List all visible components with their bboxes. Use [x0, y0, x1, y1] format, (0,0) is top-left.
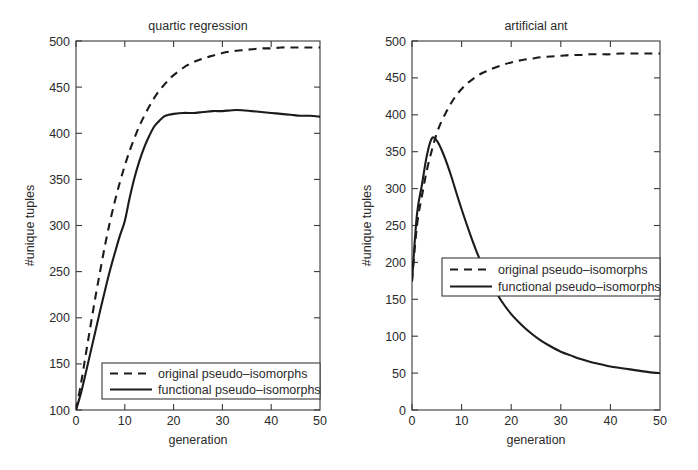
- right-series-functional-pseudo-isomorphs: [412, 137, 660, 373]
- left-xtick-label-5: 50: [313, 414, 327, 428]
- right-ytick-100: 100: [385, 330, 660, 344]
- right-ytick-label-1: 50: [392, 367, 406, 381]
- left-ytick-label-6: 400: [49, 127, 70, 141]
- left-ytick-250: 250: [49, 265, 320, 279]
- left-ytick-label-0: 100: [49, 404, 70, 418]
- right-ytick-label-6: 300: [385, 182, 406, 196]
- left-xtick-label-3: 30: [215, 414, 229, 428]
- right-xtick-20: 20: [504, 41, 518, 428]
- right-ytick-label-9: 450: [385, 71, 406, 85]
- right-xtick-10: 10: [455, 41, 469, 428]
- right-xtick-30: 30: [554, 41, 568, 428]
- right-xtick-label-1: 10: [455, 414, 469, 428]
- right-plot-title: artificial ant: [504, 19, 568, 33]
- right-ytick-450: 450: [385, 71, 660, 85]
- left-xtick-50: 50: [313, 414, 327, 428]
- left-series-group: [76, 47, 320, 410]
- left-legend-label-0: original pseudo–isomorphs: [158, 367, 307, 381]
- right-xtick-40: 40: [603, 41, 617, 428]
- right-ytick-300: 300: [385, 182, 660, 196]
- right-ytick-label-8: 400: [385, 108, 406, 122]
- right-xtick-label-4: 40: [603, 414, 617, 428]
- right-axes-frame: [412, 41, 660, 410]
- left-series-original-pseudo-isomorphs: [76, 47, 320, 410]
- right-ytick-500: 500: [385, 35, 418, 49]
- left-legend: original pseudo–isomorphs functional pse…: [102, 363, 321, 399]
- right-ytick-label-4: 200: [385, 256, 406, 270]
- figure-canvas: quartic regression 100 150 20: [0, 0, 698, 470]
- right-ytick-400: 400: [385, 108, 660, 122]
- left-plot-title: quartic regression: [148, 19, 247, 33]
- left-ytick-350: 350: [49, 173, 320, 187]
- left-xtick-label-0: 0: [73, 414, 80, 428]
- right-legend-label-0: original pseudo–isomorphs: [498, 263, 647, 277]
- right-ytick-label-2: 100: [385, 330, 406, 344]
- right-plot-svg: artificial ant 0 50 100: [349, 0, 698, 470]
- left-ytick-450: 450: [49, 81, 320, 95]
- right-xtick-label-5: 50: [653, 414, 667, 428]
- right-xaxis-title: generation: [506, 433, 565, 447]
- left-xaxis-title: generation: [168, 433, 227, 447]
- left-ytick-label-2: 200: [49, 311, 70, 325]
- left-ytick-300: 300: [49, 219, 320, 233]
- right-ytick-250: 250: [385, 219, 660, 233]
- chart-panel-quartic-regression: quartic regression 100 150 20: [0, 0, 349, 470]
- right-ytick-label-5: 250: [385, 219, 406, 233]
- right-ytick-label-0: 0: [399, 404, 406, 418]
- right-xtick-label-3: 30: [554, 414, 568, 428]
- right-ytick-label-3: 150: [385, 293, 406, 307]
- right-xtick-label-2: 20: [504, 414, 518, 428]
- left-xtick-label-2: 20: [167, 414, 181, 428]
- right-ytick-label-7: 350: [385, 145, 406, 159]
- right-xtick-label-0: 0: [409, 414, 416, 428]
- right-legend: original pseudo–isomorphs functional pse…: [442, 258, 661, 296]
- right-xtick-50: 50: [653, 414, 667, 428]
- left-ytick-200: 200: [49, 311, 320, 325]
- left-legend-label-1: functional pseudo–isomorphs: [158, 383, 321, 397]
- left-yaxis-title: #unique tuples: [23, 185, 37, 266]
- left-ytick-label-5: 350: [49, 173, 70, 187]
- left-axes-frame: [76, 41, 320, 410]
- left-ytick-400: 400: [49, 127, 320, 141]
- right-series-group: [412, 53, 660, 373]
- left-plot-svg: quartic regression 100 150 20: [0, 0, 349, 470]
- right-y-axis: 0 50 100 150: [385, 35, 660, 418]
- left-ytick-label-7: 450: [49, 81, 70, 95]
- right-legend-label-1: functional pseudo–isomorphs: [498, 280, 661, 294]
- left-ytick-label-8: 500: [49, 35, 70, 49]
- left-ytick-label-1: 150: [49, 357, 70, 371]
- right-ytick-label-10: 500: [385, 35, 406, 49]
- left-ytick-label-3: 250: [49, 265, 70, 279]
- left-xtick-label-1: 10: [118, 414, 132, 428]
- right-yaxis-title: #unique tuples: [360, 185, 374, 266]
- left-xtick-label-4: 40: [264, 414, 278, 428]
- chart-panel-artificial-ant: artificial ant 0 50 100: [349, 0, 698, 470]
- left-ytick-label-4: 300: [49, 219, 70, 233]
- left-ytick-500: 500: [49, 35, 82, 49]
